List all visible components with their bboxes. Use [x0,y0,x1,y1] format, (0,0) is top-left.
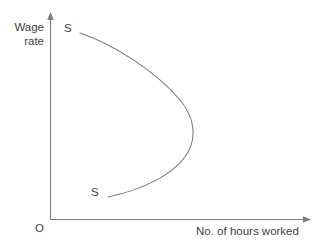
supply-curve-path [80,33,193,197]
y-axis-label-line2: rate [24,35,44,47]
supply-curve-figure: Wagerate No. of hours worked O S S [0,0,326,248]
x-axis-label: No. of hours worked [196,225,299,239]
curve-label-upper: S [64,22,72,36]
y-axis-arrow-icon [47,12,54,20]
y-axis-label-line1: Wage [14,21,44,33]
x-axis-arrow-icon [303,216,311,223]
curve-label-lower: S [91,186,99,200]
y-axis-label: Wagerate [2,21,44,48]
plot-area [0,0,326,248]
origin-label: O [35,222,44,236]
